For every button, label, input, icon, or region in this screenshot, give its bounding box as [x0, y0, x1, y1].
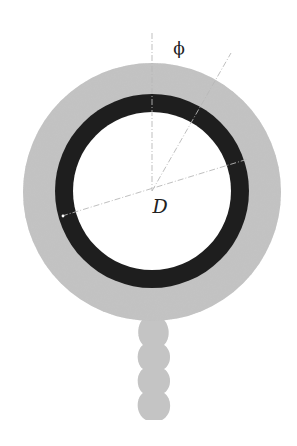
particle-cross-section-diagram: ϕ D [0, 0, 297, 446]
diameter-label-d: D [151, 195, 167, 217]
stem-tail [138, 318, 170, 420]
stem-lobes [138, 318, 170, 420]
diameter-endpoint-marker [62, 215, 65, 218]
angle-label-phi: ϕ [173, 38, 185, 58]
